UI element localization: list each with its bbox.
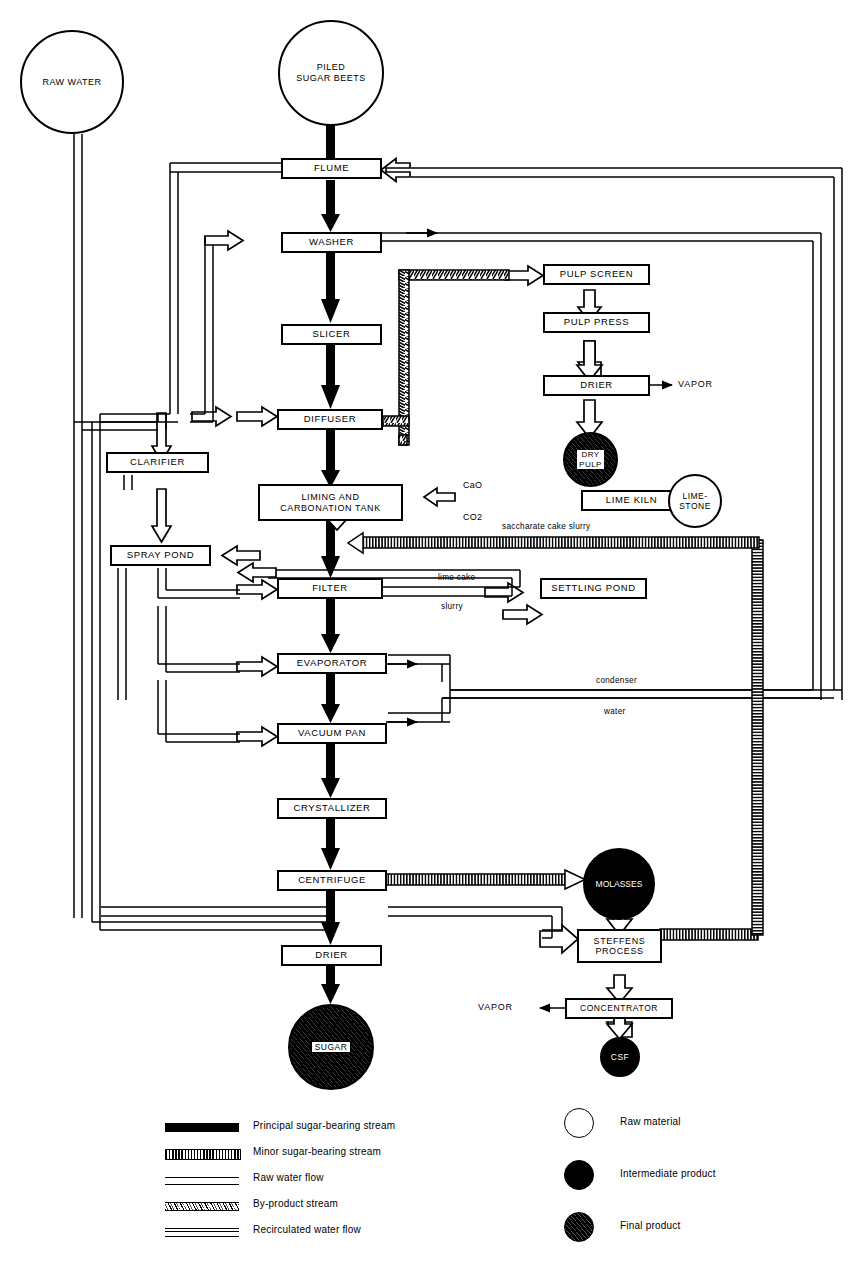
principal-stream-swatch-icon	[165, 1123, 239, 1132]
node-pulp-press-label: PULP PRESS	[564, 317, 630, 328]
node-sugar-drier[interactable]: DRIER	[281, 945, 382, 966]
node-centrifuge[interactable]: CENTRIFUGE	[277, 870, 387, 891]
node-csf[interactable]: CSF	[600, 1037, 640, 1077]
node-settling-pond-label: SETTLING POND	[551, 583, 635, 594]
node-filter-label: FILTER	[312, 583, 348, 594]
legend-label-final-product: Final product	[620, 1220, 680, 1231]
node-sugar-drier-label: DRIER	[315, 950, 348, 961]
legend-label-minor: Minor sugar-bearing stream	[253, 1146, 381, 1157]
node-vacuum-pan[interactable]: VACUUM PAN	[277, 723, 387, 744]
node-liming-carbonation-tank[interactable]: LIMING AND CARBONATION TANK	[258, 484, 403, 521]
node-molasses-label: MOLASSES	[596, 879, 643, 889]
node-diffuser[interactable]: DIFFUSER	[277, 409, 383, 430]
node-steffens-process-label: STEFFENS PROCESS	[594, 936, 646, 956]
node-washer-label: WASHER	[309, 237, 354, 248]
node-raw-water[interactable]: RAW WATER	[20, 30, 124, 134]
node-sugar[interactable]: SUGAR	[288, 1004, 374, 1090]
legend-label-byproduct: By-product stream	[253, 1198, 338, 1209]
intermediate-product-circle-icon	[564, 1160, 594, 1190]
node-flume-label: FLUME	[314, 163, 349, 174]
node-pulp-drier[interactable]: DRIER	[543, 375, 650, 396]
label-condenser: condenser	[596, 676, 637, 685]
node-vacuum-pan-label: VACUUM PAN	[298, 728, 366, 739]
node-washer[interactable]: WASHER	[281, 232, 382, 253]
byproduct-stream-swatch-icon	[165, 1202, 239, 1211]
legend-label-raw-material: Raw material	[620, 1116, 681, 1127]
final-product-circle-icon	[564, 1212, 594, 1242]
label-cao: CaO	[463, 480, 482, 490]
legend-label-recirculated: Recirculated water flow	[253, 1224, 361, 1235]
process-flow-diagram: RAW WATER PILED SUGAR BEETS FLUME WASHER…	[0, 0, 854, 1277]
raw-material-circle-icon	[564, 1108, 594, 1138]
label-vapor-pulp: VAPOR	[678, 379, 713, 389]
by-product-stream	[383, 270, 509, 445]
minor-stream-swatch-icon	[165, 1149, 241, 1160]
legend-label-raw-water: Raw water flow	[253, 1172, 324, 1183]
node-raw-water-label: RAW WATER	[42, 77, 101, 88]
label-lime-cake: lime cake	[438, 573, 475, 582]
node-csf-label: CSF	[611, 1052, 630, 1062]
node-pulp-press[interactable]: PULP PRESS	[543, 312, 650, 333]
node-settling-pond[interactable]: SETTLING POND	[540, 578, 647, 599]
node-molasses[interactable]: MOLASSES	[583, 848, 655, 920]
legend-label-intermediate-product: Intermediate product	[620, 1168, 716, 1179]
node-dry-pulp-label: DRY PULP	[577, 450, 604, 469]
node-piled-sugar-beets[interactable]: PILED SUGAR BEETS	[278, 20, 384, 126]
node-evaporator[interactable]: EVAPORATOR	[277, 653, 387, 674]
flow-connectors	[0, 0, 854, 1277]
node-slicer-label: SLICER	[313, 329, 351, 340]
node-filter[interactable]: FILTER	[277, 578, 383, 599]
node-concentrator-label: CONCENTRATOR	[580, 1004, 658, 1014]
node-clarifier-label: CLARIFIER	[130, 457, 185, 468]
node-centrifuge-label: CENTRIFUGE	[298, 875, 366, 886]
node-limestone-label: LIME- STONE	[679, 491, 711, 511]
node-crystallizer[interactable]: CRYSTALLIZER	[277, 798, 387, 819]
node-pulp-screen-label: PULP SCREEN	[560, 269, 633, 280]
node-spray-pond-label: SPRAY POND	[127, 550, 194, 561]
node-lime-kiln-label: LIME KILN	[606, 495, 657, 506]
recirculated-water-swatch-icon	[165, 1228, 239, 1237]
node-evaporator-label: EVAPORATOR	[297, 658, 367, 669]
node-sugar-label: SUGAR	[311, 1041, 352, 1053]
node-piled-sugar-beets-label: PILED SUGAR BEETS	[296, 62, 366, 84]
node-steffens-process[interactable]: STEFFENS PROCESS	[577, 929, 662, 963]
node-lime-kiln[interactable]: LIME KILN	[581, 490, 682, 511]
node-spray-pond[interactable]: SPRAY POND	[110, 545, 211, 566]
label-co2: CO2	[463, 512, 482, 522]
legend-label-principal: Principal sugar-bearing stream	[253, 1120, 395, 1131]
node-concentrator[interactable]: CONCENTRATOR	[565, 998, 673, 1019]
node-crystallizer-label: CRYSTALLIZER	[293, 803, 370, 814]
node-pulp-drier-label: DRIER	[580, 380, 613, 391]
raw-water-swatch-icon	[165, 1177, 239, 1185]
label-saccharate-cake-slurry: saccharate cake slurry	[502, 522, 591, 531]
node-pulp-screen[interactable]: PULP SCREEN	[543, 264, 650, 285]
node-flume[interactable]: FLUME	[281, 158, 382, 179]
label-water: water	[604, 707, 626, 716]
node-slicer[interactable]: SLICER	[281, 324, 382, 345]
node-dry-pulp[interactable]: DRY PULP	[563, 432, 618, 487]
node-liming-carbonation-tank-label: LIMING AND CARBONATION TANK	[280, 492, 381, 512]
node-limestone[interactable]: LIME- STONE	[668, 474, 722, 528]
label-vapor-concentrator: VAPOR	[478, 1002, 513, 1012]
node-diffuser-label: DIFFUSER	[304, 414, 356, 425]
node-clarifier[interactable]: CLARIFIER	[106, 452, 209, 473]
label-slurry: slurry	[441, 602, 463, 611]
